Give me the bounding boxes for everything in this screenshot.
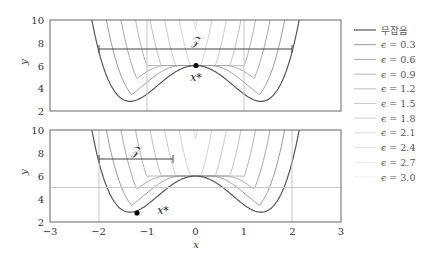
robust-curve [50,96,341,177]
robust-curve [50,96,341,177]
legend-label: ϵ = 2.4 [381,142,415,153]
robust-curve [50,0,341,65]
x-tick-label: 3 [338,226,344,237]
robust-curve [50,0,341,29]
y-tick-label: 8 [38,148,44,159]
bottom-y-ticks: 246810 [31,125,44,228]
y-tick-label: 8 [38,38,44,49]
legend-label: ϵ = 3.0 [381,172,415,183]
top-curves [50,0,341,101]
bottom-optimum-marker [134,210,139,215]
robust-curve [50,0,341,66]
legend-label: ϵ = 1.2 [381,83,415,94]
x-tick-label: −2 [91,226,106,237]
x-axis-label: x [193,239,199,250]
legend-label: ϵ = 0.3 [381,39,415,50]
x-tick-label: 2 [289,226,295,237]
robust-curve [50,96,341,206]
y-tick-label: 2 [38,106,44,117]
legend-label: 무잡음 [381,25,408,36]
top-y-ticks: 246810 [31,15,44,117]
x-tick-label: −3 [43,226,58,237]
top-y-axis-label: y [18,59,29,66]
legend-label: ϵ = 1.5 [381,98,415,109]
legend-label: ϵ = 2.1 [381,127,415,138]
legend-label: ϵ = 1.8 [381,113,415,124]
y-tick-label: 10 [31,15,44,26]
robust-curve [50,0,341,65]
legend-label: ϵ = 2.7 [381,157,415,168]
legend: 무잡음ϵ = 0.3ϵ = 0.6ϵ = 0.9ϵ = 1.2ϵ = 1.5ϵ … [354,25,415,183]
robust-curve [50,96,341,177]
noise-free-curve [50,0,341,101]
robust-curve [50,0,341,66]
top-set-label: 𝒵 [190,34,203,48]
x-tick-label: −1 [140,226,155,237]
legend-label: ϵ = 0.9 [381,69,415,80]
y-tick-label: 10 [31,125,44,136]
bottom-optimum-label: x* [157,204,169,217]
robust-curve [50,96,341,177]
robust-curve [50,96,341,140]
y-tick-label: 6 [38,171,44,182]
y-tick-label: 4 [38,83,44,94]
bottom-y-axis-label: y [18,169,29,176]
top-panel: 𝒵 x* 246810 y [18,0,341,117]
robust-optimization-chart: 𝒵 x* 246810 y 𝒵 x* 246810 −3−2−10123 y x… [0,0,429,267]
x-tick-label: 1 [241,226,247,237]
top-optimum-label: x* [190,71,202,84]
bottom-x-ticks: −3−2−10123 [43,226,345,237]
y-tick-label: 4 [38,194,44,205]
top-optimum-marker [193,63,198,68]
legend-label: ϵ = 0.6 [381,54,415,65]
x-tick-label: 0 [192,226,198,237]
y-tick-label: 6 [38,61,44,72]
